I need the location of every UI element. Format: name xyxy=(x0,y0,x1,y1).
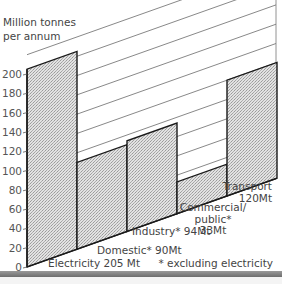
y-tick-label: 200 xyxy=(2,68,22,80)
category-label: Transport xyxy=(222,180,272,192)
category-label: Commercial/ xyxy=(180,201,247,213)
y-tick-label: 40 xyxy=(9,222,22,234)
y-axis: 020406080100120140160180200 xyxy=(2,68,27,273)
y-tick-label: 140 xyxy=(2,126,22,138)
bottom-margin xyxy=(0,277,282,284)
y-tick-label: 80 xyxy=(9,184,22,196)
bar-transport xyxy=(227,62,277,196)
category-label: Domestic* 90Mt xyxy=(97,244,182,256)
y-axis-title-line2: per annum xyxy=(3,30,60,42)
category-label: 33Mt xyxy=(200,224,227,236)
category-label: public* xyxy=(195,213,232,225)
y-tick-label: 100 xyxy=(2,165,22,177)
category-label: Industry* 94Mt xyxy=(132,225,210,237)
category-label: 120Mt xyxy=(239,192,272,204)
y-tick-label: 60 xyxy=(9,203,22,215)
footnote: * excluding electricity xyxy=(159,257,273,269)
y-tick-label: 20 xyxy=(9,242,22,254)
y-tick-label: 120 xyxy=(2,145,22,157)
bar-industry xyxy=(127,123,177,231)
oblique-bar-chart: 020406080100120140160180200 Million tonn… xyxy=(0,0,282,284)
bar-electricity xyxy=(27,51,77,267)
y-tick-label: 180 xyxy=(2,87,22,99)
y-axis-title-line1: Million tonnes xyxy=(3,16,76,28)
category-label: Electricity 205 Mt xyxy=(48,257,140,269)
y-tick-label: 160 xyxy=(2,107,22,119)
